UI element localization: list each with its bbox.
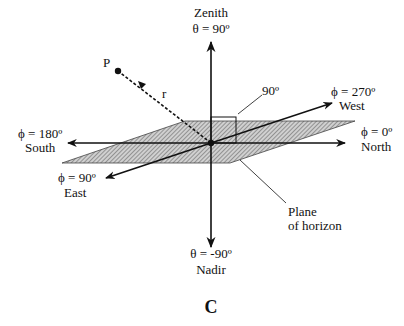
right-angle-leader bbox=[238, 95, 262, 114]
zenith-name-label: Zenith bbox=[194, 5, 228, 20]
right-angle-label: 90º bbox=[262, 83, 279, 98]
south-name-label: South bbox=[25, 140, 56, 155]
east-name-label: East bbox=[64, 185, 87, 200]
north-name-label: North bbox=[361, 139, 392, 154]
radius-label: r bbox=[162, 86, 167, 101]
nadir-angle-label: θ = -90º bbox=[190, 246, 231, 261]
west-name-label: West bbox=[339, 98, 365, 113]
east-angle-label: ϕ = 90º bbox=[58, 170, 96, 185]
west-angle-label: ϕ = 270º bbox=[331, 84, 375, 99]
point-p bbox=[115, 68, 121, 74]
north-angle-label: ϕ = 0º bbox=[361, 124, 392, 139]
panel-letter: C bbox=[205, 297, 218, 317]
south-angle-label: ϕ = 180º bbox=[18, 126, 62, 141]
spherical-coordinate-diagram: Zenith θ = 90º θ = -90º Nadir P r 90º ϕ … bbox=[0, 0, 404, 326]
plane-label-line1: Plane bbox=[288, 204, 317, 219]
nadir-name-label: Nadir bbox=[196, 262, 226, 277]
point-p-label: P bbox=[103, 55, 110, 70]
origin-point bbox=[208, 140, 214, 146]
plane-leader bbox=[240, 160, 286, 203]
plane-label-line2: of horizon bbox=[288, 218, 342, 233]
zenith-angle-label: θ = 90º bbox=[192, 21, 229, 36]
